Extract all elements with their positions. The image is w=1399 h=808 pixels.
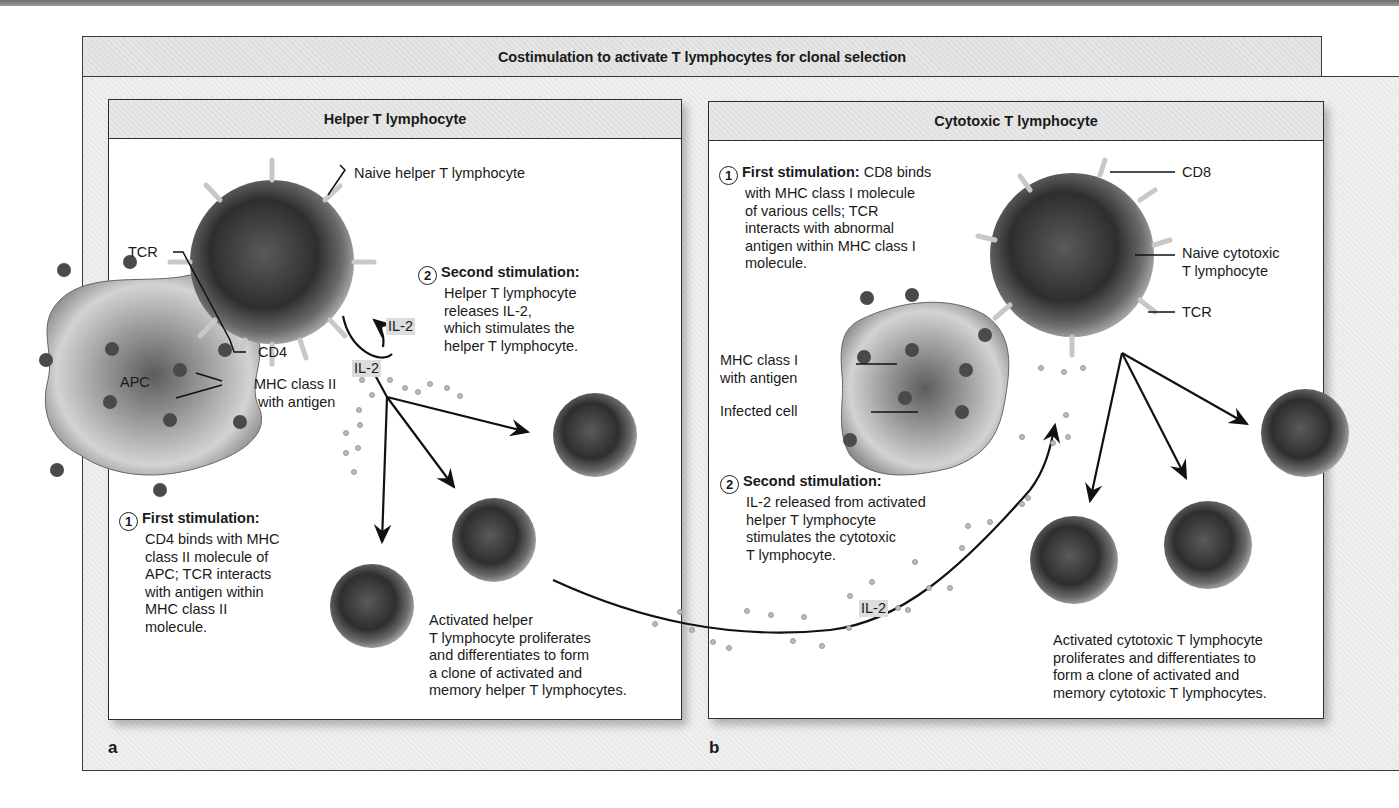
step-line: helper T lymphocyte.	[418, 338, 658, 356]
panel-a-header: Helper T lymphocyte	[109, 100, 681, 139]
step-line: MHC class II	[119, 601, 319, 619]
step-line: antigen within MHC class I	[719, 238, 1009, 256]
top-border-band	[0, 0, 1399, 6]
result-line: proliferates and differentiates to	[1053, 650, 1323, 668]
step-line: interacts with abnormal	[719, 220, 1009, 238]
result-line: Activated cytotoxic T lymphocyte	[1053, 632, 1323, 650]
panel-b-header: Cytotoxic T lymphocyte	[709, 102, 1323, 141]
il2-label-upper: IL-2	[386, 318, 415, 335]
step-number-badge: 1	[719, 166, 738, 185]
step-line: molecule.	[719, 255, 1009, 273]
step-line: IL-2 released from activated	[720, 494, 980, 512]
step-line: CD4 binds with MHC	[119, 531, 319, 549]
step-line: stimulates the cytotoxic	[720, 529, 980, 547]
step-heading-tail: CD8 binds	[860, 164, 932, 180]
step-line: of various cells; TCR	[719, 203, 1009, 221]
step-line: Helper T lymphocyte	[418, 285, 658, 303]
cd8-label: CD8	[1182, 164, 1211, 182]
il2-label-b: IL-2	[859, 600, 888, 617]
mhc-class-ii-label-1: MHC class II	[254, 376, 336, 394]
apc-label: APC	[120, 374, 150, 392]
panel-letter-a: a	[108, 738, 117, 758]
step-2-cytotoxic: 2Second stimulation: IL-2 released from …	[720, 473, 980, 564]
step-number-badge: 2	[418, 266, 437, 285]
result-line: and differentiates to form	[429, 647, 679, 665]
result-cytotoxic: Activated cytotoxic T lymphocyte prolife…	[1053, 632, 1323, 702]
cd4-label: CD4	[258, 344, 287, 362]
step-2-helper: 2Second stimulation: Helper T lymphocyte…	[418, 264, 658, 355]
step-line: with antigen within	[119, 584, 319, 602]
result-line: a clone of activated and	[429, 665, 679, 683]
result-line: form a clone of activated and	[1053, 667, 1323, 685]
step-heading: Second stimulation:	[441, 264, 580, 280]
naive-cytotoxic-label-1: Naive cytotoxic	[1182, 245, 1280, 263]
infected-cell-label: Infected cell	[720, 403, 797, 421]
mhc-class-i-label-2: with antigen	[720, 370, 797, 388]
step-line: molecule.	[119, 619, 319, 637]
step-line: APC; TCR interacts	[119, 566, 319, 584]
step-heading: First stimulation:	[142, 510, 260, 526]
naive-cytotoxic-label-2: T lymphocyte	[1182, 263, 1268, 281]
step-line: which stimulates the	[418, 320, 658, 338]
step-1-helper: 1First stimulation: CD4 binds with MHC c…	[119, 510, 319, 636]
step-line: T lymphocyte.	[720, 547, 980, 565]
step-number-badge: 1	[119, 512, 138, 531]
result-line: memory cytotoxic T lymphocytes.	[1053, 685, 1323, 703]
panel-letter-b: b	[709, 738, 719, 758]
il2-label-lower: IL-2	[352, 360, 381, 377]
result-line: Activated helper	[429, 612, 679, 630]
mhc-class-i-label-1: MHC class I	[720, 352, 798, 370]
step-heading: Second stimulation:	[743, 473, 882, 489]
result-helper: Activated helper T lymphocyte proliferat…	[429, 612, 679, 700]
result-line: memory helper T lymphocytes.	[429, 682, 679, 700]
tcr-label-a: TCR	[128, 244, 158, 262]
result-line: T lymphocyte proliferates	[429, 630, 679, 648]
mhc-class-ii-label-2: with antigen	[258, 394, 335, 412]
step-line: class II molecule of	[119, 549, 319, 567]
tcr-label-b: TCR	[1182, 304, 1212, 322]
naive-helper-t-label: Naive helper T lymphocyte	[354, 165, 525, 183]
step-1-cytotoxic: 1First stimulation: CD8 binds with MHC c…	[719, 164, 1009, 273]
step-number-badge: 2	[720, 475, 739, 494]
step-heading: First stimulation:	[742, 164, 860, 180]
step-line: releases IL-2,	[418, 303, 658, 321]
step-line: with MHC class I molecule	[719, 185, 1009, 203]
figure-title: Costimulation to activate T lymphocytes …	[82, 36, 1322, 76]
step-line: helper T lymphocyte	[720, 512, 980, 530]
